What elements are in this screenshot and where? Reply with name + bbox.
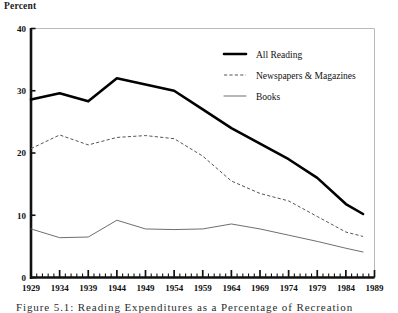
series-line — [31, 220, 363, 252]
x-tick-label: 1974 — [280, 283, 299, 293]
line-chart-plot: 0102030401929193419391944194919541959196… — [0, 0, 398, 300]
series-line — [31, 78, 363, 214]
y-tick-label: 40 — [17, 24, 27, 34]
legend-label: Newspapers & Magazines — [256, 71, 356, 81]
x-tick-label: 1954 — [165, 283, 184, 293]
x-tick-label: 1959 — [194, 283, 213, 293]
x-tick-label: 1934 — [51, 283, 70, 293]
x-tick-label: 1939 — [79, 283, 98, 293]
chart-axes — [30, 28, 375, 279]
series-line — [31, 135, 363, 236]
legend-label: All Reading — [256, 50, 302, 60]
x-tick-label: 1979 — [308, 283, 327, 293]
y-tick-label: 30 — [17, 86, 27, 96]
y-tick-label: 20 — [17, 148, 27, 158]
x-tick-label: 1964 — [222, 283, 241, 293]
chart-tick-labels: 0102030401929193419391944194919541959196… — [17, 24, 384, 293]
y-tick-label: 0 — [22, 273, 27, 283]
chart-legend: All ReadingNewspapers & MagazinesBooks — [224, 50, 356, 102]
figure-container: Percent 01020304019291934193919441949195… — [0, 0, 398, 313]
y-tick-label: 10 — [17, 211, 27, 221]
chart-series — [31, 78, 363, 252]
x-tick-label: 1929 — [22, 283, 41, 293]
figure-caption: Figure 5.1: Reading Expenditures as a Pe… — [16, 301, 353, 313]
legend-label: Books — [256, 92, 281, 102]
x-tick-label: 1989 — [366, 283, 385, 293]
x-tick-label: 1984 — [337, 283, 356, 293]
x-tick-label: 1944 — [108, 283, 127, 293]
x-tick-label: 1949 — [137, 283, 156, 293]
x-tick-label: 1969 — [251, 283, 270, 293]
